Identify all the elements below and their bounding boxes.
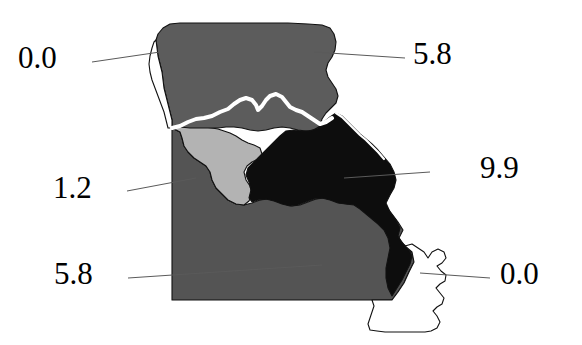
map-figure: 0.0 5.8 1.2 9.9 5.8 0.0 xyxy=(0,0,582,345)
value-label-bootheel: 0.0 xyxy=(500,258,539,289)
value-label-northwest: 0.0 xyxy=(18,42,57,73)
value-label-east-central: 9.9 xyxy=(480,152,519,183)
value-label-south: 5.8 xyxy=(54,258,93,289)
region-north[interactable] xyxy=(156,23,338,131)
value-label-west-central: 1.2 xyxy=(53,172,92,203)
value-label-north: 5.8 xyxy=(413,38,452,69)
